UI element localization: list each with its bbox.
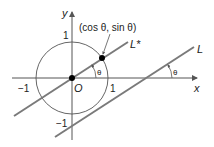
cos-sin-point xyxy=(99,55,105,61)
angle-arc-l-star xyxy=(92,65,96,78)
angle-label-l-star: θ xyxy=(97,68,102,77)
label-pointer xyxy=(103,34,110,54)
origin-point xyxy=(69,75,75,81)
origin-label: O xyxy=(74,82,83,94)
x-axis-label: x xyxy=(193,82,200,94)
unit-circle-diagram: y x O 1 −1 1 −1 (cos θ, sin θ) L* L θ θ xyxy=(0,0,214,147)
point-label: (cos θ, sin θ) xyxy=(79,22,136,33)
tick-x-pos: 1 xyxy=(110,83,116,94)
line-l-star-label: L* xyxy=(130,38,141,50)
tick-y-neg: −1 xyxy=(56,118,68,129)
y-axis-label: y xyxy=(61,7,69,19)
tick-y-pos: 1 xyxy=(63,30,69,41)
tick-x-neg: −1 xyxy=(18,83,30,94)
angle-label-l: θ xyxy=(173,68,178,77)
line-l-label: L xyxy=(197,43,203,55)
angle-arc-l xyxy=(168,65,172,78)
